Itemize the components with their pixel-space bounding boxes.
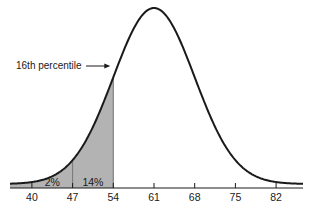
annotation-label: 16th percentile	[16, 60, 82, 71]
percentile-annotation: 16th percentile	[16, 60, 110, 71]
x-tick-label: 40	[26, 191, 38, 203]
x-tick-label: 68	[189, 191, 201, 203]
x-tick-label: 82	[270, 191, 282, 203]
chart-canvas: 40475461687582 2%14% 16th percentile	[0, 0, 315, 206]
normal-distribution-chart: 40475461687582 2%14% 16th percentile	[0, 0, 315, 206]
x-tick-label: 54	[107, 191, 119, 203]
bell-curve	[10, 8, 303, 184]
region-percent-label: 2%	[45, 176, 60, 188]
x-tick-label: 47	[67, 191, 79, 203]
region-percent-label: 14%	[82, 176, 103, 188]
arrow-head-icon	[104, 64, 110, 69]
x-tick-label: 75	[230, 191, 242, 203]
x-tick-label: 61	[148, 191, 160, 203]
